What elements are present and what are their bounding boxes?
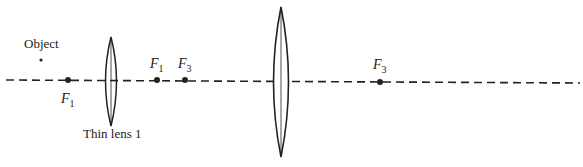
object-label: Object (24, 36, 59, 51)
f3-left-label: F3 (177, 56, 192, 74)
focal-point-f1-right (154, 77, 160, 83)
object-point (39, 58, 42, 61)
f1-right-label: F1 (149, 56, 164, 74)
f1-left-label: F1 (60, 91, 75, 109)
thin-lens-1-label: Thin lens 1 (83, 126, 142, 141)
focal-point-f3-right (377, 79, 383, 85)
thin-lens-2 (274, 7, 289, 157)
thin-lens-1 (106, 37, 117, 126)
f3-right-label: F3 (372, 57, 387, 75)
focal-point-f3-left (182, 77, 188, 83)
optics-diagram: Object F1 Thin lens 1 F1 F3 F3 (0, 0, 583, 167)
focal-point-f1-left (65, 77, 71, 83)
optical-axis (6, 80, 580, 83)
